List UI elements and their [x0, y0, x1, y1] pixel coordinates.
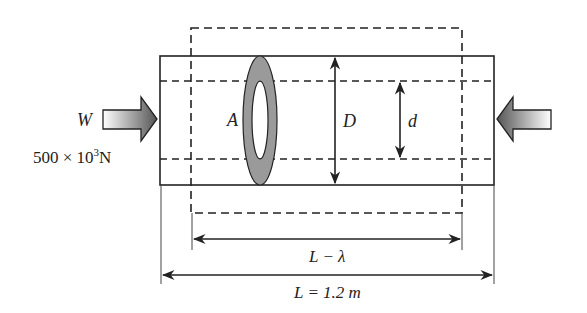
outer-diameter-label: D [342, 111, 356, 131]
load-arrow-right-icon [497, 97, 551, 141]
cylinder-body [160, 56, 494, 185]
load-value-label: 500 × 103N [33, 146, 111, 167]
inner-diameter-label: d [408, 111, 418, 131]
area-label: A [226, 110, 239, 130]
load-arrow-left-icon [103, 97, 157, 141]
cylinder-diagram: W 500 × 103N A D d L − λ L = 1.2 m [0, 0, 587, 313]
deformed-length-label: L − λ [308, 247, 345, 266]
load-symbol-label: W [77, 110, 94, 130]
original-length-label: L = 1.2 m [293, 283, 361, 302]
cross-section-ring [243, 56, 277, 185]
